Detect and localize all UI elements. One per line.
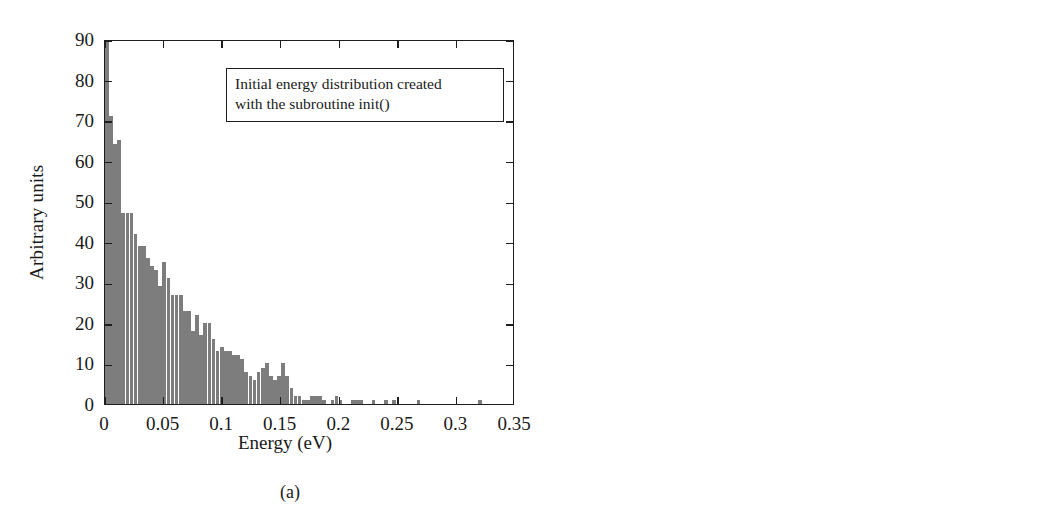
y-axis-tick	[105, 81, 112, 82]
x-axis-tick	[456, 397, 457, 404]
histogram-bar	[478, 400, 482, 404]
y-axis-tick-label: 20	[46, 313, 94, 335]
y-axis-tick-label: 90	[46, 29, 94, 51]
panel-b: Arbitrary units Wavevector ky (1/m) x 10…	[529, 0, 1059, 523]
x-axis-tick-label: 0.35	[497, 413, 530, 435]
histogram-bar	[322, 400, 326, 404]
x-axis-tick	[221, 397, 222, 404]
y-axis-tick-label: 10	[46, 353, 94, 375]
y-axis-tick	[105, 121, 112, 122]
y-axis-tick-label: 50	[46, 191, 94, 213]
y-axis-tick-label: 0	[46, 394, 94, 416]
histogram-bar	[372, 400, 376, 404]
histogram-bar	[392, 400, 396, 404]
x-axis-tick	[397, 397, 398, 404]
y-axis-tick	[506, 324, 513, 325]
panel-a: Arbitrary units Energy (eV) Initial ener…	[0, 0, 530, 523]
annotation-box-a: Initial energy distribution created with…	[226, 68, 504, 122]
y-axis-tick	[105, 284, 112, 285]
y-axis-tick	[506, 162, 513, 163]
x-axis-tick	[104, 397, 105, 404]
x-axis-tick	[104, 41, 105, 48]
y-axis-tick	[105, 365, 112, 366]
y-axis-tick	[506, 284, 513, 285]
figure-container: Arbitrary units Energy (eV) Initial ener…	[0, 0, 1059, 523]
x-axis-tick	[280, 397, 281, 404]
y-axis-tick	[105, 40, 112, 41]
x-axis-tick-label: 0.3	[444, 413, 468, 435]
x-axis-tick	[280, 41, 281, 48]
y-axis-tick	[105, 203, 112, 204]
x-axis-tick	[221, 41, 222, 48]
histogram-bar	[384, 400, 388, 404]
x-axis-tick-label: 0.25	[380, 413, 413, 435]
histogram-bar	[359, 400, 363, 404]
y-axis-label-a: Arbitrary units	[26, 165, 48, 280]
y-axis-tick	[105, 324, 112, 325]
annotation-line-2: with the subroutine init()	[235, 94, 495, 114]
histogram-bar	[417, 400, 421, 404]
x-axis-tick	[456, 41, 457, 48]
x-axis-tick-label: 0.1	[209, 413, 233, 435]
y-axis-tick	[105, 162, 112, 163]
y-axis-tick	[506, 40, 513, 41]
x-axis-tick-label: 0	[99, 413, 109, 435]
y-axis-tick-label: 70	[46, 110, 94, 132]
y-axis-tick	[506, 203, 513, 204]
x-axis-tick	[339, 41, 340, 48]
y-axis-tick	[506, 243, 513, 244]
y-axis-tick-label: 40	[46, 232, 94, 254]
x-axis-label-a: Energy (eV)	[120, 432, 450, 454]
y-axis-tick	[506, 81, 513, 82]
y-axis-tick-label: 30	[46, 272, 94, 294]
x-axis-tick-label: 0.2	[326, 413, 350, 435]
y-axis-tick	[506, 365, 513, 366]
x-axis-tick	[163, 41, 164, 48]
x-axis-tick-label: 0.15	[263, 413, 296, 435]
x-axis-tick	[397, 41, 398, 48]
x-axis-tick	[339, 397, 340, 404]
y-axis-tick	[506, 121, 513, 122]
y-axis-tick	[105, 243, 112, 244]
x-axis-tick-label: 0.05	[146, 413, 179, 435]
x-axis-tick	[163, 397, 164, 404]
y-axis-tick-label: 60	[46, 151, 94, 173]
y-axis-tick-label: 80	[46, 70, 94, 92]
subfigure-caption-a: (a)	[230, 482, 350, 503]
annotation-line-1: Initial energy distribution created	[235, 74, 495, 94]
